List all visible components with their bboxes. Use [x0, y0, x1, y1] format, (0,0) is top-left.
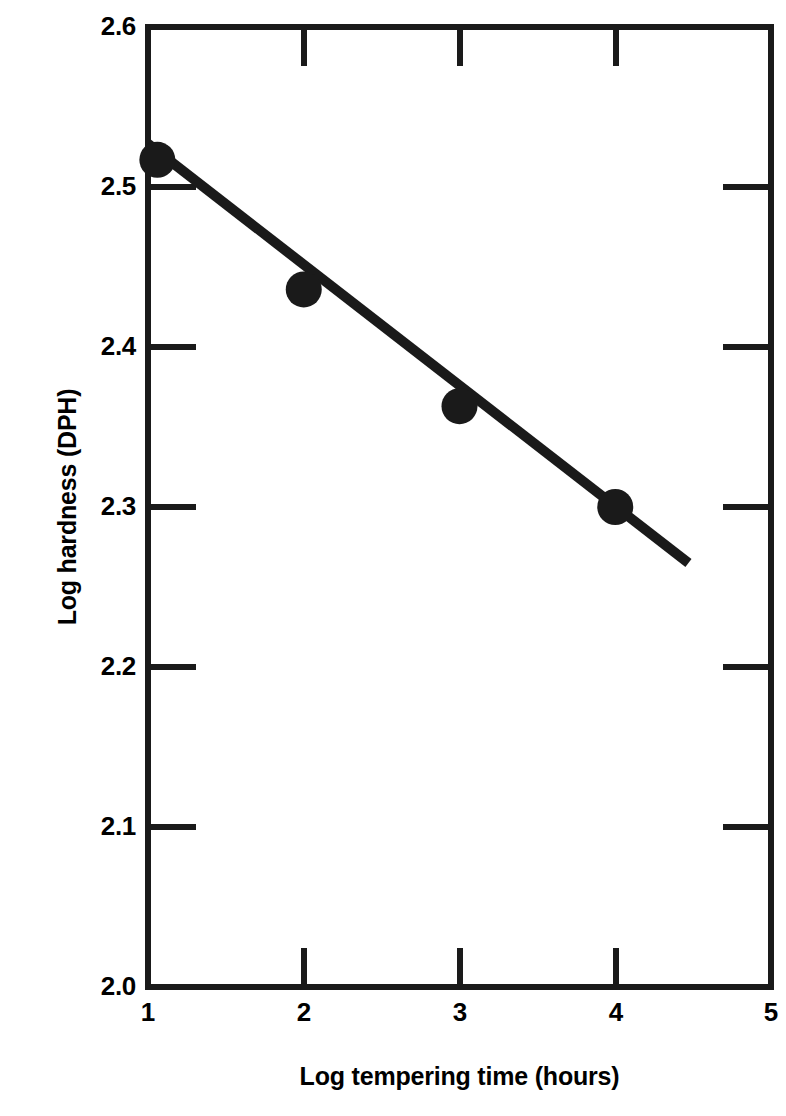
y-tick-label-2-6: 2.6: [101, 11, 136, 42]
y-tick-label-2-3: 2.3: [101, 491, 136, 522]
y-axis-label: Log hardness (DPH): [44, 27, 90, 987]
x-axis-ticks-top: [304, 27, 616, 66]
data-point: [597, 489, 633, 525]
data-point: [139, 142, 175, 178]
y-axis-ticks-right: [723, 187, 771, 827]
x-axis-ticks-bottom: [304, 948, 616, 987]
plot-area: [0, 0, 786, 1116]
y-tick-label-2-2: 2.2: [101, 651, 136, 682]
y-tick-label-2-4: 2.4: [101, 331, 136, 362]
plot-frame: [148, 27, 771, 987]
x-tick-label-5: 5: [751, 997, 786, 1028]
y-axis-ticks-left: [148, 187, 196, 827]
y-tick-label-2-1: 2.1: [101, 811, 136, 842]
x-axis-label: Log tempering time (hours): [148, 1062, 771, 1091]
chart-figure: Log hardness (DPH) Log tempering time (h…: [0, 0, 786, 1116]
x-tick-label-3: 3: [440, 997, 480, 1028]
x-tick-label-2: 2: [284, 997, 324, 1028]
data-point: [286, 271, 322, 307]
x-tick-label-4: 4: [596, 997, 636, 1028]
y-tick-label-2-5: 2.5: [101, 171, 136, 202]
x-tick-label-1: 1: [128, 997, 168, 1028]
data-point: [442, 388, 478, 424]
